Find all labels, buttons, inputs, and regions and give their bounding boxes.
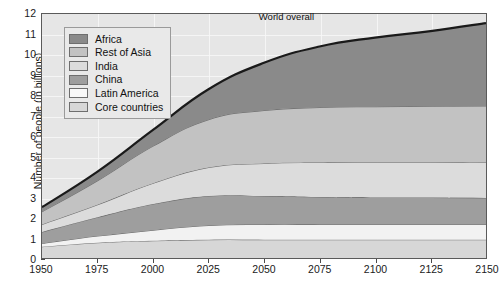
x-tick-label: 1975 <box>85 263 108 275</box>
legend-swatch-icon <box>69 47 88 57</box>
legend-item-india: India <box>69 59 163 73</box>
x-tick-mark <box>97 259 98 263</box>
legend-item-latin-america: Latin America <box>69 86 163 100</box>
x-tick-label: 2100 <box>364 263 387 275</box>
y-tick-label: 10 <box>0 48 36 60</box>
x-tick-label: 2075 <box>308 263 331 275</box>
y-tick-label: 3 <box>0 192 36 204</box>
y-tick-label: 9 <box>0 69 36 81</box>
y-tick-label: 1 <box>0 233 36 245</box>
y-tick-label: 8 <box>0 89 36 101</box>
population-stacked-area-chart: Number of people (in billions) 012345678… <box>0 0 501 289</box>
y-tick-label: 11 <box>0 28 36 40</box>
x-tick-label: 2150 <box>475 263 498 275</box>
legend-item-label: Latin America <box>95 88 159 99</box>
x-tick-mark <box>320 259 321 263</box>
legend-item-label: China <box>95 74 122 85</box>
legend-swatch-icon <box>69 34 88 44</box>
x-tick-label: 2125 <box>420 263 443 275</box>
legend-item-rest-of-asia: Rest of Asia <box>69 46 163 60</box>
y-tick-label: 2 <box>0 212 36 224</box>
legend-swatch-icon <box>69 102 88 112</box>
y-tick-label: 6 <box>0 130 36 142</box>
legend-item-label: Core countries <box>95 102 163 113</box>
x-tick-mark <box>264 259 265 263</box>
legend-item-china: China <box>69 73 163 87</box>
legend-item-core-countries: Core countries <box>69 100 163 114</box>
legend-item-africa: Africa <box>69 32 163 46</box>
x-tick-label: 1950 <box>29 263 52 275</box>
x-tick-label: 2050 <box>252 263 275 275</box>
x-tick-mark <box>208 259 209 263</box>
x-tick-mark <box>153 259 154 263</box>
legend: AfricaRest of AsiaIndiaChinaLatin Americ… <box>64 27 171 119</box>
x-tick-mark <box>376 259 377 263</box>
y-tick-mark <box>41 259 45 260</box>
world-overall-annotation: World overall <box>259 11 314 22</box>
y-tick-label: 12 <box>0 7 36 19</box>
legend-swatch-icon <box>69 88 88 98</box>
x-tick-label: 2000 <box>141 263 164 275</box>
legend-swatch-icon <box>69 61 88 71</box>
y-tick-label: 5 <box>0 151 36 163</box>
legend-swatch-icon <box>69 75 88 85</box>
legend-item-label: Rest of Asia <box>95 47 151 58</box>
x-tick-label: 2025 <box>197 263 220 275</box>
y-tick-label: 4 <box>0 171 36 183</box>
x-tick-mark <box>431 259 432 263</box>
legend-item-label: India <box>95 61 118 72</box>
legend-item-label: Africa <box>95 34 122 45</box>
y-tick-label: 7 <box>0 110 36 122</box>
